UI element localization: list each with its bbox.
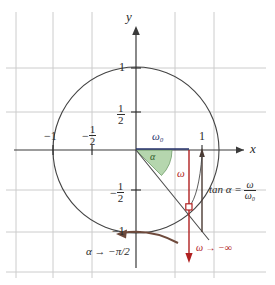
x-axis-label: x bbox=[250, 142, 256, 155]
minus-sign: − bbox=[82, 130, 89, 142]
omega-limit-label: ω → −∞ bbox=[196, 243, 232, 253]
radius-to-point bbox=[136, 150, 209, 240]
tangent-formula: tan α = ω ω₀ bbox=[209, 180, 256, 201]
fraction-one-half: 1 2 bbox=[117, 103, 125, 126]
tangent-formula-fraction: ω ω₀ bbox=[244, 180, 257, 201]
x-tick-label-one: 1 bbox=[199, 130, 205, 142]
y-tick-label-half: 1 2 bbox=[117, 103, 125, 126]
figure-canvas bbox=[0, 0, 275, 285]
x-axis-arrowhead bbox=[236, 147, 244, 154]
omega0-label: ω₀ bbox=[152, 131, 164, 142]
y-axis-label: y bbox=[126, 10, 132, 23]
y-tick-label-one: 1 bbox=[119, 61, 125, 73]
omega-label: ω bbox=[177, 168, 185, 179]
y-axis-arrowhead bbox=[132, 26, 140, 35]
alpha-limit-label: α → −π/2 bbox=[86, 246, 130, 257]
minus-sign: − bbox=[110, 187, 117, 199]
y-tick-label-minus-one: −1 bbox=[112, 225, 125, 237]
fraction-one-half: 1 2 bbox=[117, 181, 125, 204]
alpha-rotation-curved-arrow bbox=[122, 232, 178, 243]
unit-circle-phase-diagram: y x −1 − 1 2 1 1 1 2 − 1 2 −1 ω₀ α ω tan… bbox=[0, 0, 275, 285]
omega-arrowhead bbox=[185, 253, 192, 263]
x-tick-label-minus-one: −1 bbox=[44, 130, 57, 142]
x-tick-label-minus-half: − 1 2 bbox=[82, 124, 96, 147]
tangent-formula-lhs: tan α = bbox=[209, 183, 242, 195]
alpha-label: α bbox=[150, 152, 155, 162]
y-tick-label-minus-half: − 1 2 bbox=[110, 181, 124, 204]
intersection-point-marker bbox=[186, 204, 192, 210]
fraction-one-half: 1 2 bbox=[89, 124, 97, 147]
construction-arc bbox=[189, 155, 202, 207]
